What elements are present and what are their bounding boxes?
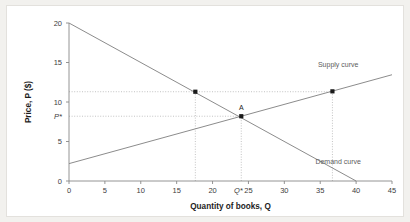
y-axis-tick-label: 0: [58, 177, 62, 186]
y-axis-tick-label: 10: [54, 98, 62, 107]
supply-point: [330, 89, 334, 93]
x-axis-tick-label: 20: [208, 186, 216, 195]
x-axis-tick-label: 30: [280, 186, 288, 195]
x-axis-tick-label: 25: [244, 186, 252, 195]
axes-layer: 05101520253035404505101520: [54, 19, 397, 195]
x-axis-tick-label: 35: [316, 186, 324, 195]
figure-panel: 05101520253035404505101520 Demand curveS…: [6, 5, 404, 217]
x-axis-tick-label: 15: [172, 186, 180, 195]
data-points-layer: [193, 89, 334, 118]
figure-container: 05101520253035404505101520 Demand curveS…: [0, 0, 410, 222]
y-axis-title: Price, P ($): [24, 81, 33, 123]
equilibrium-point-A-label: A: [239, 104, 244, 111]
x-axis-tick-label: 45: [388, 186, 396, 195]
y-axis-tick-label: 5: [58, 137, 62, 146]
x-axis-tick-label: 0: [67, 186, 71, 195]
y-axis-tick-label: 20: [54, 19, 62, 28]
demand-point: [193, 90, 197, 94]
y-axis-tick-label: 15: [54, 58, 62, 67]
x-axis-tick-label: 40: [352, 186, 360, 195]
equilibrium-quantity-label: Q*: [234, 186, 244, 195]
x-axis-title: Quantity of books, Q: [190, 202, 271, 211]
demand-curve-line: [69, 23, 356, 181]
equilibrium-price-label: P*: [54, 112, 63, 121]
labels-layer: Demand curveSupply curveAP*Q*Quantity of…: [24, 61, 361, 211]
equilibrium-point-A: [239, 114, 243, 118]
supply-demand-chart: 05101520253035404505101520 Demand curveS…: [7, 6, 405, 218]
demand-curve-label: Demand curve: [315, 158, 361, 165]
x-axis-tick-label: 10: [137, 186, 145, 195]
guide-lines-layer: [69, 91, 332, 181]
x-axis-tick-label: 5: [103, 186, 107, 195]
supply-curve-label: Supply curve: [318, 61, 359, 69]
supply-curve-line: [69, 75, 392, 164]
